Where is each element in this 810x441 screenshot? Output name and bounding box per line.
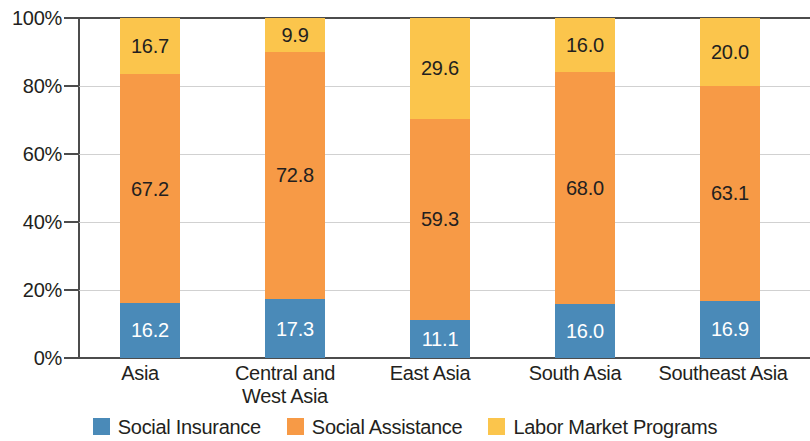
chart-legend: Social Insurance Social Assistance Labor…: [0, 412, 810, 441]
bar-segment-social-insurance[interactable]: 17.3: [265, 299, 325, 358]
bar-segment-value-label: 20.0: [711, 42, 749, 62]
x-axis-label-southeast-asia: Southeast Asia: [637, 362, 809, 385]
bar-group-asia[interactable]: 16.2 67.2 16.7: [120, 18, 180, 358]
x-axis-label-line: South Asia: [495, 362, 655, 385]
bar-segment-social-insurance[interactable]: 16.2: [120, 303, 180, 358]
bar-segment-value-label: 67.2: [131, 179, 169, 199]
bar-segment-labor-market-programs[interactable]: 20.0: [700, 18, 760, 86]
legend-item-labor-market-programs[interactable]: Labor Market Programs: [488, 417, 717, 437]
bar-segment-labor-market-programs[interactable]: 29.6: [410, 18, 470, 119]
y-tick-label-80: 80%: [0, 76, 62, 96]
stacked-bar-chart: 100% 80% 60% 40% 20% 0% 16.2 67.2 16.7 1…: [0, 0, 810, 441]
legend-swatch-icon: [488, 418, 505, 435]
bar-segment-value-label: 63.1: [711, 183, 749, 203]
legend-item-social-insurance[interactable]: Social Insurance: [93, 417, 261, 437]
x-axis-label-line: West Asia: [205, 385, 365, 408]
bar-segment-labor-market-programs[interactable]: 9.9: [265, 18, 325, 52]
x-axis-label-asia: Asia: [60, 362, 220, 385]
plot-area: 16.2 67.2 16.7 17.3 72.8 9.9 11.1 59.3 2…: [79, 18, 810, 358]
legend-label: Social Assistance: [312, 417, 463, 437]
y-tick-mark-60: [64, 153, 79, 155]
y-tick-label-20: 20%: [0, 280, 62, 300]
bar-segment-social-assistance[interactable]: 59.3: [410, 119, 470, 321]
legend-label: Labor Market Programs: [513, 417, 717, 437]
bar-segment-labor-market-programs[interactable]: 16.0: [555, 18, 615, 72]
bar-segment-social-assistance[interactable]: 72.8: [265, 52, 325, 300]
bar-segment-social-insurance[interactable]: 16.9: [700, 301, 760, 358]
legend-label: Social Insurance: [118, 417, 261, 437]
bar-segment-social-insurance[interactable]: 11.1: [410, 320, 470, 358]
bar-segment-value-label: 11.1: [422, 329, 459, 349]
bar-segment-social-assistance[interactable]: 68.0: [555, 72, 615, 303]
y-tick-label-100: 100%: [0, 8, 62, 28]
y-tick-mark-0: [64, 357, 79, 359]
bar-segment-value-label: 68.0: [566, 178, 604, 198]
bar-segment-value-label: 72.8: [276, 165, 314, 185]
x-axis-label-east-asia: East Asia: [350, 362, 510, 385]
bar-segment-value-label: 16.7: [131, 36, 169, 56]
x-axis-label-line: Southeast Asia: [637, 362, 809, 385]
bar-group-east-asia[interactable]: 11.1 59.3 29.6: [410, 18, 470, 358]
x-axis-label-line: East Asia: [350, 362, 510, 385]
bar-segment-value-label: 16.0: [566, 321, 604, 341]
bar-segment-value-label: 29.6: [421, 58, 459, 78]
bar-segment-value-label: 16.0: [566, 35, 604, 55]
x-axis-label-central-and-west-asia: Central andWest Asia: [205, 362, 365, 408]
y-tick-mark-80: [64, 85, 79, 87]
legend-swatch-icon: [287, 418, 304, 435]
bar-group-central-and-west-asia[interactable]: 17.3 72.8 9.9: [265, 18, 325, 358]
legend-item-social-assistance[interactable]: Social Assistance: [287, 417, 463, 437]
y-tick-mark-40: [64, 221, 79, 223]
bar-segment-social-assistance[interactable]: 63.1: [700, 86, 760, 301]
y-tick-mark-100: [64, 17, 79, 19]
y-tick-label-40: 40%: [0, 212, 62, 232]
x-axis-label-south-asia: South Asia: [495, 362, 655, 385]
bar-segment-value-label: 16.2: [131, 320, 169, 340]
bar-group-south-asia[interactable]: 16.0 68.0 16.0: [555, 18, 615, 358]
y-tick-label-0: 0%: [0, 348, 62, 368]
bar-group-southeast-asia[interactable]: 16.9 63.1 20.0: [700, 18, 760, 358]
bar-segment-social-assistance[interactable]: 67.2: [120, 74, 180, 302]
bar-segment-value-label: 9.9: [281, 25, 308, 45]
bar-segment-value-label: 16.9: [711, 319, 749, 339]
bar-segment-value-label: 17.3: [276, 319, 314, 339]
legend-swatch-icon: [93, 418, 110, 435]
bar-segment-value-label: 59.3: [421, 209, 459, 229]
y-axis-label-group: 100% 80% 60% 40% 20% 0%: [0, 0, 62, 441]
x-axis-label-line: Central and: [205, 362, 365, 385]
x-axis-label-line: Asia: [60, 362, 220, 385]
bar-segment-labor-market-programs[interactable]: 16.7: [120, 18, 180, 75]
y-tick-label-60: 60%: [0, 144, 62, 164]
x-axis-label-group: Asia Central andWest Asia East Asia Sout…: [79, 362, 810, 414]
y-tick-mark-20: [64, 289, 79, 291]
bar-segment-social-insurance[interactable]: 16.0: [555, 304, 615, 358]
